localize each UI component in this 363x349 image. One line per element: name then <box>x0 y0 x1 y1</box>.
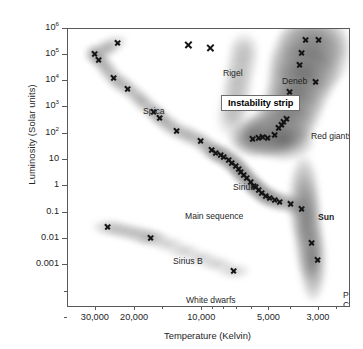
annotation-line: Red giants <box>311 132 350 142</box>
annotation-white-dwarfs: White dwarfs <box>186 296 236 306</box>
population-cloud <box>294 184 322 279</box>
star-marker <box>185 41 192 48</box>
star-marker <box>207 44 214 51</box>
population-cloud <box>108 223 142 239</box>
y-tick-label: 0.001 <box>36 259 59 268</box>
star-marker <box>314 256 321 263</box>
y-tick-label: 0.1 <box>46 207 59 216</box>
population-cloud <box>279 28 349 73</box>
y-tick-label: 105 <box>45 49 59 58</box>
annotation-deneb: Deneb <box>282 77 307 87</box>
annotation-line: Main sequence <box>185 212 243 222</box>
y-axis-title: Luminosity (Solar units) <box>26 35 37 235</box>
annotation-line: Sun <box>318 213 334 223</box>
y-tick-label: 102 <box>45 128 59 137</box>
main-sequence-band <box>68 29 349 306</box>
population-cloud <box>100 64 142 102</box>
star-marker <box>110 74 117 81</box>
star-marker <box>276 198 283 205</box>
population-cloud <box>300 221 326 301</box>
star-marker <box>173 127 180 134</box>
annotation-line: Sirius <box>233 183 255 193</box>
y-tick-label: 10 <box>49 154 59 163</box>
annotation-rigel: Rigel <box>223 69 243 79</box>
population-cloud <box>151 236 185 252</box>
instability-strip-band <box>68 29 349 306</box>
instability-strip-label: Instability strip <box>221 95 300 111</box>
star-marker <box>231 267 238 274</box>
annotation-proxima-centauri: ProximaCentauri <box>343 291 350 307</box>
y-tick-label: 0.01 <box>41 233 59 242</box>
star-marker <box>271 131 278 138</box>
population-cloud <box>164 118 214 154</box>
y-tick-label: 103 <box>45 101 59 110</box>
y-tick-label: 104 <box>45 75 59 84</box>
star-marker <box>197 138 204 145</box>
y-tick-label: 1 <box>54 180 59 189</box>
y-tick-label: 106 <box>45 23 59 32</box>
star-marker <box>147 234 154 241</box>
annotation-red-giants: Red giants <box>311 132 350 142</box>
population-cloud <box>278 191 315 222</box>
star-marker <box>312 79 319 86</box>
star-marker <box>125 85 132 92</box>
annotation-line: White dwarfs <box>186 296 236 306</box>
red-giant-band <box>68 29 349 306</box>
annotation-sirius-b: Sirius B <box>173 257 203 267</box>
population-cloud <box>229 32 259 66</box>
star-marker <box>288 200 295 207</box>
annotation-line: Centauri <box>343 301 350 307</box>
population-cloud <box>200 256 234 272</box>
star-marker <box>308 239 315 246</box>
star-marker <box>302 37 309 44</box>
annotation-main-sequence: Main sequence <box>185 212 243 222</box>
annotation-line: Spica <box>143 107 165 117</box>
plot-area: SpicaRigelDenebBetelgeuseAntaresRed gian… <box>67 28 350 307</box>
annotation-line: Rigel <box>223 69 243 79</box>
annotation-sirius: Sirius <box>233 183 255 193</box>
annotation-line: Deneb <box>282 77 307 87</box>
annotation-sun: Sun <box>318 213 334 223</box>
hr-diagram-figure: 1061051041031021010.10.010.001 Luminosit… <box>0 0 363 349</box>
x-axis: 30,00020,00010,0005,0003,000 <box>67 305 348 329</box>
star-marker <box>298 206 305 213</box>
population-cloud <box>117 225 151 241</box>
white-dwarf-band <box>68 29 349 306</box>
annotation-line: Sirius B <box>173 257 203 267</box>
star-marker <box>96 56 103 63</box>
star-marker <box>296 61 303 68</box>
annotation-spica: Spica <box>143 107 165 117</box>
population-cloud <box>81 30 131 67</box>
star-marker <box>104 224 111 231</box>
star-marker <box>315 37 322 44</box>
x-tick-label: 3,000 <box>278 313 358 322</box>
x-axis-title: Temperature (Kelvin) <box>67 330 348 341</box>
star-marker <box>298 49 305 56</box>
star-marker <box>114 39 121 46</box>
star-marker <box>249 135 256 142</box>
